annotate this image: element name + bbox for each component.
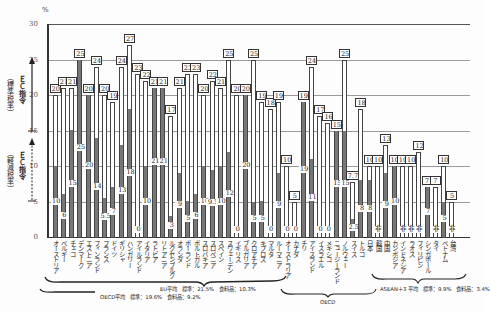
asean-average-note: ASEAN＋3 平均 標準：9.9% 食料品：3.4% [380, 285, 490, 293]
eu-average-note: EU平均 標準：21.5% 食料品：10.3% [160, 285, 256, 293]
asean-brace [372, 274, 466, 283]
lower-arrow-icon [28, 138, 36, 201]
upper-arrow-icon [28, 57, 36, 131]
oecd-brace [281, 289, 376, 297]
oecd-group-label: OECD [320, 299, 335, 305]
oecd-average-note: OECD平均 標準：19.6% 食料品：9.2% [100, 293, 201, 301]
oecd-average-brace [40, 289, 95, 292]
